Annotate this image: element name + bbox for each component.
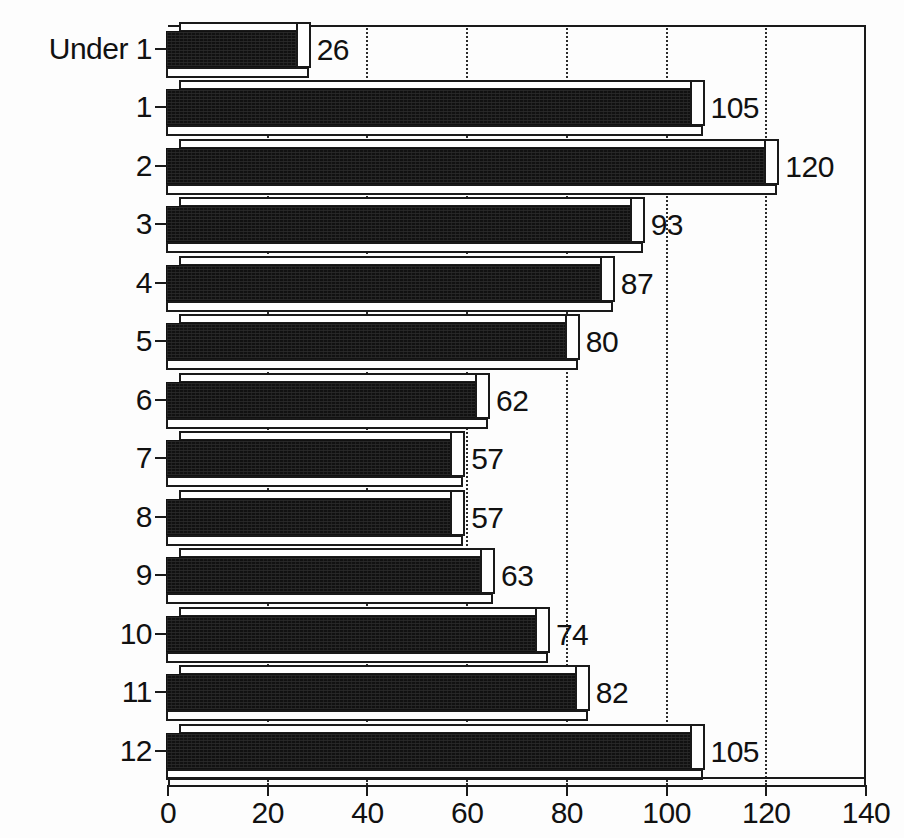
- bar-side-face: [535, 607, 550, 653]
- bar-bottom-face: [166, 652, 548, 663]
- bar-front-face: [166, 31, 298, 67]
- y-axis-label-slot: 6: [0, 383, 152, 417]
- y-axis-tick-8: [155, 516, 168, 518]
- x-axis-tick-label: 20: [252, 796, 284, 830]
- bar-value-label: 87: [621, 267, 653, 301]
- bar-front-face: [166, 323, 567, 359]
- bar-grain-texture: [167, 617, 536, 651]
- bar-grain-texture: [167, 675, 576, 709]
- bar-front-face: [166, 440, 452, 476]
- y-axis-tick-label: 9: [136, 558, 152, 592]
- bar-value-label: 82: [596, 676, 628, 710]
- y-axis-tick-label: 4: [136, 266, 152, 300]
- y-axis-tick-1: [155, 106, 168, 108]
- y-axis-tick-label: 11: [122, 675, 152, 709]
- bar-side-face: [764, 139, 779, 185]
- y-axis-tick-label: 6: [136, 383, 152, 417]
- bar-bottom-face: [166, 476, 463, 487]
- bar-grain-texture: [167, 266, 601, 300]
- bar-grain-texture: [167, 383, 476, 417]
- bar-grain-texture: [167, 558, 481, 592]
- bar-bottom-face: [166, 301, 613, 312]
- bar-side-face: [565, 314, 580, 360]
- bar-value-label: 62: [496, 384, 528, 418]
- bar-side-face: [690, 724, 705, 770]
- x-axis-tick-0: [167, 785, 169, 796]
- bar-value-label: 105: [711, 735, 760, 769]
- y-axis-label-slot: Under 1: [0, 32, 152, 66]
- y-axis-tick-label: Under 1: [49, 32, 152, 66]
- y-axis-label-slot: 10: [0, 617, 152, 651]
- y-axis-tick-label: 2: [136, 149, 152, 183]
- x-axis-upper-line: [168, 777, 866, 779]
- bar-grain-texture: [167, 734, 691, 768]
- x-axis-tick-label: 0: [160, 796, 176, 830]
- bar-front-face: [166, 674, 577, 710]
- bar-bottom-face: [166, 125, 703, 136]
- y-axis-label-slot: 12: [0, 734, 152, 768]
- y-axis-tick-label: 12: [120, 734, 152, 768]
- y-axis-tick-5: [155, 340, 168, 342]
- y-axis-tick-label: 7: [136, 441, 152, 475]
- bar-side-face: [296, 22, 311, 68]
- bar-side-face: [630, 197, 645, 243]
- x-axis-tick-100: [666, 785, 668, 796]
- bar-value-label: 120: [785, 150, 834, 184]
- bar-value-label: 105: [711, 91, 760, 125]
- bar-chart: 26105120938780625757637482105 Under 1123…: [0, 0, 904, 838]
- bar-bottom-face: [166, 593, 493, 604]
- bar-value-label: 57: [471, 442, 503, 476]
- bar-value-label: 57: [471, 501, 503, 535]
- bar-front-face: [166, 499, 452, 535]
- x-axis-tick-80: [566, 785, 568, 796]
- bar-value-label: 26: [317, 33, 349, 67]
- bar-side-face: [450, 431, 465, 477]
- y-axis-tick-11: [155, 691, 168, 693]
- y-axis-label-slot: 5: [0, 324, 152, 358]
- bar-bottom-face: [166, 418, 488, 429]
- bar-grain-texture: [167, 90, 691, 124]
- y-axis-tick-label: 10: [120, 617, 152, 651]
- y-axis-label-slot: 1: [0, 90, 152, 124]
- bar-bottom-face: [166, 710, 588, 721]
- y-axis-label-slot: 4: [0, 266, 152, 300]
- bar-value-label: 63: [501, 559, 533, 593]
- bar-side-face: [600, 256, 615, 302]
- x-axis-tick-label: 40: [351, 796, 383, 830]
- y-axis-label-slot: 2: [0, 149, 152, 183]
- bar-grain-texture: [167, 324, 566, 358]
- bar-front-face: [166, 89, 692, 125]
- y-axis-tick-label: 3: [136, 207, 152, 241]
- x-axis-tick-120: [765, 785, 767, 796]
- bar-value-label: 93: [651, 208, 683, 242]
- y-axis-label-slot: 3: [0, 207, 152, 241]
- bar-value-label: 80: [586, 325, 618, 359]
- x-axis-tick-140: [865, 785, 867, 796]
- bar-bottom-face: [166, 184, 777, 195]
- bar-side-face: [690, 80, 705, 126]
- y-axis-label-slot: 8: [0, 500, 152, 534]
- y-axis-tick-label: 5: [136, 324, 152, 358]
- x-axis-tick-40: [366, 785, 368, 796]
- x-axis-tick-label: 80: [551, 796, 583, 830]
- bar-bottom-face: [166, 242, 643, 253]
- bar-front-face: [166, 733, 692, 769]
- y-axis-label-slot: 7: [0, 441, 152, 475]
- bar-front-face: [166, 206, 632, 242]
- y-axis-tick-9: [155, 574, 168, 576]
- x-axis-tick-20: [267, 785, 269, 796]
- bar-value-label: 74: [556, 618, 588, 652]
- x-axis-tick-label: 120: [742, 796, 791, 830]
- y-axis-tick-3: [155, 223, 168, 225]
- y-axis-tick-6: [155, 399, 168, 401]
- y-axis-tick-0: [155, 48, 168, 50]
- y-axis-tick-4: [155, 282, 168, 284]
- y-axis-tick-7: [155, 457, 168, 459]
- x-axis-line: [168, 785, 866, 787]
- bar-bottom-face: [166, 67, 309, 78]
- bar-bottom-face: [166, 359, 578, 370]
- x-axis-tick-label: 140: [842, 796, 891, 830]
- bar-grain-texture: [167, 32, 297, 66]
- bar-side-face: [475, 373, 490, 419]
- y-axis-tick-label: 1: [136, 90, 152, 124]
